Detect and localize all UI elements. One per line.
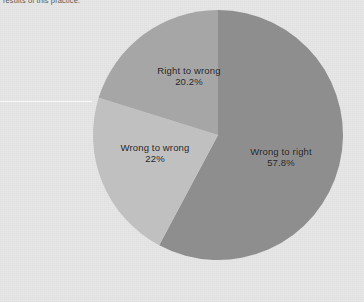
page-root: results of this practice. Wrong to right…: [0, 0, 364, 302]
pie-chart: Wrong to right 57.8% Wrong to wrong 22% …: [0, 0, 364, 302]
pie-slice-label-right-to-wrong-value: 20.2%: [147, 76, 231, 87]
pie-slice-label-wrong-to-right: Wrong to right 57.8%: [239, 146, 323, 168]
pie-slice-label-wrong-to-wrong: Wrong to wrong 22%: [113, 142, 197, 164]
pie-slice-label-right-to-wrong: Right to wrong 20.2%: [147, 65, 231, 87]
pie-slice-label-wrong-to-right-name: Wrong to right: [239, 146, 323, 157]
pie-slice-label-right-to-wrong-name: Right to wrong: [147, 65, 231, 76]
pie-slice-label-wrong-to-wrong-value: 22%: [113, 153, 197, 164]
pie-slice-label-wrong-to-right-value: 57.8%: [239, 157, 323, 168]
pie-slice-label-wrong-to-wrong-name: Wrong to wrong: [113, 142, 197, 153]
pie-slice-group: [93, 10, 343, 260]
